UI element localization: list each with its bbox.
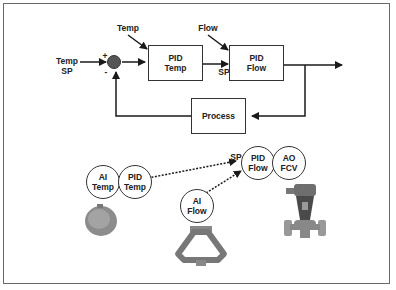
minus-sign: - bbox=[102, 67, 110, 77]
coriolis-flow-meter-icon bbox=[174, 226, 230, 272]
flow-control-valve-icon bbox=[282, 180, 326, 246]
plus-sign: + bbox=[101, 51, 109, 61]
temperature-transmitter-icon bbox=[83, 203, 119, 243]
ao-fcv-block: AO FCV bbox=[272, 146, 306, 180]
ai-temp-block: AI Temp bbox=[86, 165, 120, 199]
flow-disturbance-label: Flow bbox=[196, 23, 220, 33]
pid-temp-fb: PID Temp bbox=[118, 165, 152, 199]
sp-label-field: SP bbox=[229, 152, 243, 162]
process-block: Process bbox=[191, 98, 246, 134]
temp-sp-label: Temp SP bbox=[54, 56, 80, 76]
temp-disturbance-label: Temp bbox=[114, 23, 142, 33]
pid-flow-fb: PID Flow bbox=[241, 146, 275, 180]
pid-temp-block: PID Temp bbox=[148, 45, 203, 81]
ai-flow-block: AI Flow bbox=[180, 189, 214, 223]
pid-flow-block: PID Flow bbox=[229, 45, 284, 81]
